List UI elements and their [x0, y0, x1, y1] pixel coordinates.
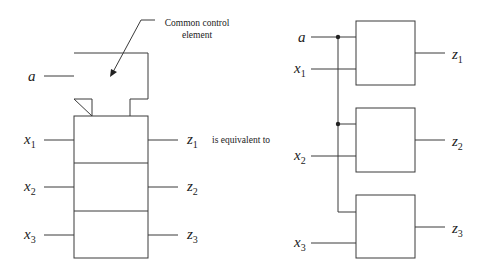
left-output-z2: z2 [186, 178, 198, 197]
left-output-z3: z3 [186, 226, 198, 245]
left-output-z1: z1 [186, 131, 198, 150]
right-output-z1: z1 [451, 46, 463, 65]
right-input-x2: x2 [293, 147, 306, 166]
equivalence-text: is equivalent to [212, 135, 270, 145]
left-input-a: a [28, 68, 36, 84]
stacked-elements [74, 116, 148, 258]
right-output-z3: z3 [451, 220, 463, 239]
left-diagram: Common control element a x1 x2 x3 z1 z2 … [23, 18, 230, 258]
junction-dot-1 [336, 35, 340, 39]
callout-line2: element [182, 30, 212, 40]
callout-line1: Common control [165, 18, 230, 28]
equivalence-diagram: Common control element a x1 x2 x3 z1 z2 … [0, 0, 490, 278]
left-input-x3: x3 [23, 226, 36, 245]
right-input-x3: x3 [293, 234, 306, 253]
right-diagram: a x1 x2 x3 z1 z2 z3 [293, 21, 463, 258]
element-2 [356, 108, 415, 172]
common-control-element [74, 53, 148, 116]
left-input-x2: x2 [23, 178, 36, 197]
element-1 [356, 21, 415, 85]
right-input-a: a [298, 29, 306, 45]
element-3 [356, 195, 415, 258]
callout-leader [113, 20, 155, 72]
junction-dot-2 [336, 122, 340, 126]
right-output-z2: z2 [451, 133, 463, 152]
right-input-x1: x1 [293, 60, 306, 79]
left-input-x1: x1 [23, 131, 36, 150]
